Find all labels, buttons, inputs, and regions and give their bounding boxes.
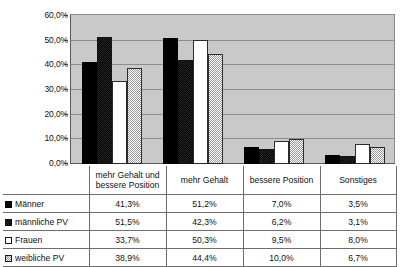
bar-group [71, 15, 152, 164]
bar [274, 141, 289, 164]
table-column-header: bessere Position [243, 166, 320, 195]
table-value-cell: 10,0% [243, 249, 320, 267]
y-axis: 60,0%50,0%40,0%30,0%20,0%10,0%0,0% [0, 14, 68, 164]
table-value-cell: 51,5% [89, 213, 166, 231]
y-axis-tick-label: 20,0% [6, 109, 68, 119]
table-value-cell: 6,2% [243, 213, 320, 231]
y-axis-tick-mark [64, 40, 68, 41]
table-corner-cell [3, 166, 89, 195]
bar-group [315, 15, 396, 164]
legend-item-label: Männer [15, 199, 44, 209]
table-row: Frauen33,7%50,3%9,5%8,0% [3, 231, 396, 249]
table-value-cell: 8,0% [320, 231, 396, 249]
bar [355, 144, 370, 164]
table-value-cell: 9,5% [243, 231, 320, 249]
bar [259, 149, 274, 164]
table-column-header: mehr Gehalt und bessere Position [89, 166, 166, 195]
legend-item: männliche PV [3, 213, 89, 231]
y-axis-tick-label: 50,0% [6, 35, 68, 45]
bar [163, 38, 178, 164]
legend-item-label: Frauen [15, 235, 42, 245]
y-axis-tick-mark [64, 163, 68, 164]
legend-item-label: männliche PV [15, 217, 68, 227]
legend-swatch-dark-checkered-square-icon [5, 219, 12, 226]
table-value-cell: 44,4% [166, 249, 243, 267]
table-header-row: mehr Gehalt und bessere Positionmehr Geh… [3, 166, 396, 195]
table-value-cell: 50,3% [166, 231, 243, 249]
y-axis-tick-label: 60,0% [6, 10, 68, 20]
table-value-cell: 7,0% [243, 195, 320, 213]
bar-series-container [71, 15, 394, 164]
data-table-body: mehr Gehalt und bessere Positionmehr Geh… [3, 166, 396, 267]
y-axis-tick-mark [64, 114, 68, 115]
legend-swatch-white-outlined-square-icon [5, 237, 12, 244]
bar-group [234, 15, 315, 164]
y-axis-tick-mark [64, 89, 68, 90]
table-value-cell: 6,7% [320, 249, 396, 267]
table-row: männliche PV51,5%42,3%6,2%3,1% [3, 213, 396, 231]
y-axis-tick-label: 10,0% [6, 133, 68, 143]
y-axis-tick-mark [64, 15, 68, 16]
bar [289, 139, 304, 164]
bar [178, 60, 193, 164]
y-axis-tick-mark [64, 138, 68, 139]
bar-group [152, 15, 233, 164]
table-row: weibliche PV38,9%44,4%10,0%6,7% [3, 249, 396, 267]
legend-swatch-filled-black-square-icon [5, 201, 12, 208]
data-table: mehr Gehalt und bessere Positionmehr Geh… [3, 166, 397, 267]
y-axis-tick-label: 40,0% [6, 59, 68, 69]
y-axis-tick-mark [64, 64, 68, 65]
table-row: Männer41,3%51,2%7,0%3,5% [3, 195, 396, 213]
legend-item: weibliche PV [3, 249, 89, 267]
table-value-cell: 51,2% [166, 195, 243, 213]
table-value-cell: 33,7% [89, 231, 166, 249]
table-column-header: mehr Gehalt [166, 166, 243, 195]
table-value-cell: 3,1% [320, 213, 396, 231]
legend-item-label: weibliche PV [15, 253, 64, 263]
table-value-cell: 3,5% [320, 195, 396, 213]
table-value-cell: 38,9% [89, 249, 166, 267]
table-value-cell: 41,3% [89, 195, 166, 213]
bar [127, 68, 142, 164]
table-value-cell: 42,3% [166, 213, 243, 231]
bar [82, 62, 97, 164]
legend-item: Männer [3, 195, 89, 213]
legend-swatch-light-checkered-square-icon [5, 255, 12, 262]
bar [193, 40, 208, 164]
bar [97, 37, 112, 164]
y-axis-tick-label: 30,0% [6, 84, 68, 94]
bar [325, 155, 340, 164]
bar [370, 147, 385, 164]
legend-item: Frauen [3, 231, 89, 249]
bar [244, 147, 259, 164]
bar [208, 54, 223, 164]
table-column-header: Sonstiges [320, 166, 396, 195]
bar-chart: 60,0%50,0%40,0%30,0%20,0%10,0%0,0% [0, 0, 408, 168]
bar [340, 156, 355, 164]
bar [112, 81, 127, 164]
